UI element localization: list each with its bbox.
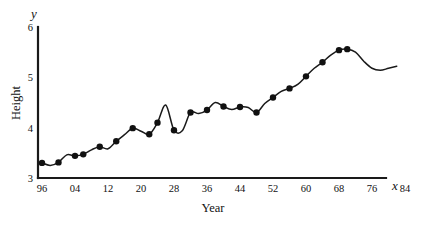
y-axis-symbol: y: [29, 6, 37, 21]
chart-canvas: y x 6 5 4 3 96 04 12 20 28 36 44 52 60 6…: [0, 0, 427, 228]
data-point-marker: [253, 109, 259, 115]
data-point-marker: [97, 144, 103, 150]
data-point-marker: [130, 125, 136, 131]
data-point-marker: [303, 73, 309, 79]
y-tick-label-4: 4: [28, 123, 34, 134]
x-tick-label-8: 60: [301, 183, 312, 194]
data-point-marker: [80, 151, 86, 157]
data-point-marker: [55, 159, 61, 165]
height-vs-year-chart: y x 6 5 4 3 96 04 12 20 28 36 44 52 60 6…: [0, 0, 427, 228]
x-axis-symbol: x: [391, 178, 398, 193]
x-tick-label-7: 52: [268, 183, 279, 194]
x-tick-label-1: 04: [70, 183, 81, 194]
x-tick-label-11: 84: [400, 183, 411, 194]
data-point-marker: [336, 47, 342, 53]
x-tick-label-9: 68: [334, 183, 345, 194]
data-point-marker: [39, 160, 45, 166]
x-tick-label-3: 20: [136, 183, 147, 194]
x-tick-label-2: 12: [103, 183, 114, 194]
y-tick-label-3: 3: [28, 173, 33, 184]
data-point-marker: [146, 131, 152, 137]
y-axis-title: Height: [9, 85, 23, 120]
x-tick-label-4: 28: [169, 183, 180, 194]
data-point-markers: [39, 46, 351, 166]
height-series-line: [42, 49, 397, 165]
x-tick-label-6: 44: [235, 183, 246, 194]
data-point-marker: [270, 94, 276, 100]
x-axis-title: Year: [201, 201, 225, 215]
data-point-marker: [237, 104, 243, 110]
data-point-marker: [286, 85, 292, 91]
x-tick-label-0: 96: [37, 183, 48, 194]
data-point-marker: [319, 59, 325, 65]
data-point-marker: [154, 119, 160, 125]
data-point-marker: [113, 138, 119, 144]
data-point-marker: [204, 107, 210, 113]
data-point-marker: [171, 127, 177, 133]
data-point-marker: [72, 153, 78, 159]
y-tick-label-5: 5: [28, 72, 33, 83]
x-tick-label-5: 36: [202, 183, 213, 194]
y-tick-label-6: 6: [28, 22, 33, 33]
data-point-marker: [344, 46, 350, 52]
data-point-marker: [187, 109, 193, 115]
x-tick-label-10: 76: [367, 183, 378, 194]
data-point-marker: [220, 103, 226, 109]
